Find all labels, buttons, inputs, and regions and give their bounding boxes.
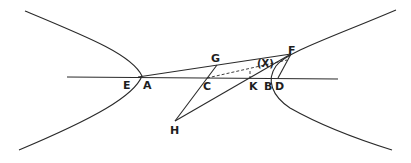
label-E: E xyxy=(123,79,131,92)
label-G: G xyxy=(211,52,220,65)
label-C: C xyxy=(203,80,211,93)
label-H: H xyxy=(170,124,179,137)
label-X: (X) xyxy=(257,58,274,69)
label-B: B xyxy=(264,80,272,93)
label-F: F xyxy=(288,44,296,57)
line-GH xyxy=(175,65,217,121)
label-A: A xyxy=(143,79,152,92)
label-D: D xyxy=(275,80,284,93)
hyperbola-diagram: E A G C K B D F H (X) xyxy=(0,0,411,163)
right-hyperbola-branch xyxy=(271,10,396,150)
label-K: K xyxy=(249,80,258,93)
axis-line xyxy=(67,77,338,79)
